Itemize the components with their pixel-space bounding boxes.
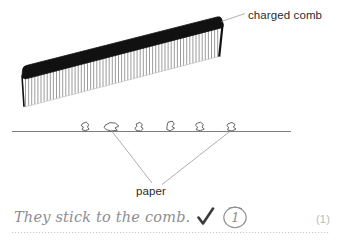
paper-piece-6 xyxy=(227,122,236,131)
label-paper: paper xyxy=(136,185,166,197)
check-mark-icon xyxy=(197,207,215,227)
circled-mark: 1 xyxy=(222,205,248,229)
mark-value: 1 xyxy=(222,205,248,229)
paper-piece-3 xyxy=(135,122,143,131)
comb-left-end xyxy=(22,76,24,107)
paper-pieces xyxy=(81,121,236,131)
page-mark: (1) xyxy=(316,213,330,225)
answer-row: They stick to the comb. 1 xyxy=(14,205,248,229)
leader-line-paper-left xyxy=(111,130,152,183)
paper-piece-4 xyxy=(167,121,175,131)
leader-line-charged-comb xyxy=(222,14,246,22)
paper-piece-1 xyxy=(81,122,89,131)
leader-line-paper-right xyxy=(162,131,231,185)
comb-right-end xyxy=(219,26,222,56)
comb-illustration xyxy=(22,17,224,107)
paper-piece-2 xyxy=(104,123,119,131)
paper-piece-5 xyxy=(196,122,205,131)
label-charged-comb: charged comb xyxy=(248,9,322,21)
worksheet-page: charged comb paper They stick to the com… xyxy=(0,0,340,241)
handwritten-answer: They stick to the comb. xyxy=(14,209,190,225)
